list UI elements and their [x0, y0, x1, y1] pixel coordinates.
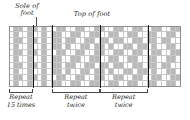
pattern-chart	[9, 26, 181, 87]
section-divider	[33, 25, 34, 88]
repeat-label-line2: 15 times	[7, 101, 35, 109]
section-divider	[100, 25, 101, 88]
knitting-chart-figure: Sole of foot Top of foot Repeat15 timesR…	[0, 0, 190, 120]
section-divider	[148, 25, 149, 88]
top-of-foot-label: Top of foot	[62, 11, 122, 18]
chart-cell	[176, 81, 181, 87]
sole-of-foot-label: Sole of foot	[9, 3, 45, 17]
section-divider	[52, 25, 53, 88]
repeat-label: Repeattwice	[86, 94, 162, 109]
sole-of-foot-label-line2: foot	[20, 9, 33, 17]
repeat-label-line2: twice	[67, 101, 85, 109]
sole-label-leader-line	[36, 17, 37, 26]
pattern-grid	[9, 26, 181, 87]
repeat-label-line2: twice	[115, 101, 133, 109]
